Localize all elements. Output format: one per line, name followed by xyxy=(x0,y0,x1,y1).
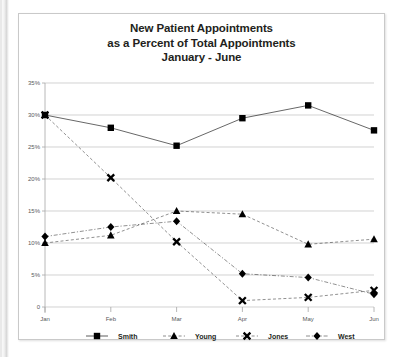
data-point-west-jun xyxy=(370,290,377,298)
marker-square xyxy=(305,102,311,108)
data-point-young-jan xyxy=(41,239,49,246)
x-tick-label: Mar xyxy=(171,316,181,322)
data-point-jones-feb xyxy=(107,174,114,181)
data-point-west-may xyxy=(305,274,312,282)
marker-x-1 xyxy=(107,174,114,181)
y-tick-label: 0 xyxy=(37,304,41,310)
marker-diamond xyxy=(41,233,48,241)
data-point-young-may xyxy=(304,240,312,247)
marker-square xyxy=(94,333,100,339)
marker-x-2 xyxy=(107,174,114,181)
data-point-young-jun xyxy=(370,235,378,242)
legend-label-smith: Smith xyxy=(118,333,137,340)
chart-title: New Patient Appointments as a Percent of… xyxy=(19,14,384,65)
marker-diamond xyxy=(305,274,312,282)
marker-diamond xyxy=(370,290,377,298)
legend-label-young: Young xyxy=(195,333,216,341)
chart-title-line-1: New Patient Appointments xyxy=(19,21,384,36)
marker-diamond xyxy=(173,217,180,225)
marker-triangle xyxy=(41,239,49,246)
legend-marker-young xyxy=(170,332,178,339)
marker-x-1 xyxy=(173,238,180,245)
marker-square xyxy=(239,115,245,121)
y-tick-label: 30% xyxy=(28,112,41,118)
y-tick-label: 5% xyxy=(31,272,40,278)
x-tick-label: Jun xyxy=(369,316,379,322)
data-point-smith-mar xyxy=(173,143,179,149)
data-point-smith-may xyxy=(305,102,311,108)
data-point-jones-may xyxy=(305,294,312,301)
data-point-jones-jun xyxy=(371,287,378,294)
data-point-smith-jun xyxy=(371,127,377,133)
data-point-young-feb xyxy=(107,231,115,238)
legend-label-jones: Jones xyxy=(268,333,288,340)
marker-square xyxy=(371,127,377,133)
chart-title-line-3: January - June xyxy=(19,50,384,65)
chart-card: New Patient Appointments as a Percent of… xyxy=(18,13,385,340)
data-point-jones-mar xyxy=(173,238,180,245)
marker-x-2 xyxy=(239,297,246,304)
marker-triangle xyxy=(173,207,181,214)
y-tick-label: 10% xyxy=(28,240,41,246)
marker-triangle xyxy=(170,332,178,339)
marker-square xyxy=(173,143,179,149)
data-point-west-feb xyxy=(107,223,114,231)
marker-diamond xyxy=(239,270,246,278)
marker-square xyxy=(42,112,48,118)
legend-marker-smith xyxy=(94,333,100,339)
marker-triangle xyxy=(304,240,312,247)
series-line-young xyxy=(45,211,374,244)
marker-square xyxy=(108,125,114,131)
marker-triangle xyxy=(370,235,378,242)
data-point-west-jan xyxy=(41,233,48,241)
data-point-young-apr xyxy=(239,210,247,217)
data-point-jones-jan xyxy=(42,112,49,119)
marker-x-1 xyxy=(305,294,312,301)
scanned-page-edge-line xyxy=(0,0,2,357)
marker-triangle xyxy=(239,210,247,217)
data-point-smith-apr xyxy=(239,115,245,121)
marker-x-1 xyxy=(371,287,378,294)
data-point-west-apr xyxy=(239,270,246,278)
marker-x-2 xyxy=(173,238,180,245)
chart-title-line-2: as a Percent of Total Appointments xyxy=(19,36,384,51)
data-point-smith-feb xyxy=(108,125,114,131)
marker-x-2 xyxy=(244,333,251,340)
marker-diamond xyxy=(107,223,114,231)
marker-x-2 xyxy=(305,294,312,301)
marker-x-1 xyxy=(42,112,49,119)
series-line-smith xyxy=(45,105,374,145)
data-point-jones-apr xyxy=(239,297,246,304)
data-point-west-mar xyxy=(173,217,180,225)
marker-x-2 xyxy=(371,287,378,294)
y-tick-label: 20% xyxy=(28,176,41,182)
data-point-young-mar xyxy=(173,207,181,214)
x-tick-label: May xyxy=(303,316,314,322)
series-line-west xyxy=(45,221,374,294)
y-tick-label: 25% xyxy=(28,144,41,150)
series-line-jones xyxy=(45,115,374,301)
data-point-smith-jan xyxy=(42,112,48,118)
x-tick-label: Apr xyxy=(238,316,247,322)
marker-x-2 xyxy=(42,112,49,119)
marker-x-1 xyxy=(244,333,251,340)
x-tick-label: Feb xyxy=(106,316,117,322)
legend-marker-west xyxy=(313,332,320,340)
marker-x-1 xyxy=(239,297,246,304)
legend-label-west: West xyxy=(338,333,355,340)
marker-triangle xyxy=(107,231,115,238)
legend-marker-jones xyxy=(244,333,251,340)
marker-diamond xyxy=(313,332,320,340)
y-tick-label: 15% xyxy=(28,208,41,214)
x-tick-label: Jan xyxy=(40,316,50,322)
y-tick-label: 35% xyxy=(28,80,41,86)
